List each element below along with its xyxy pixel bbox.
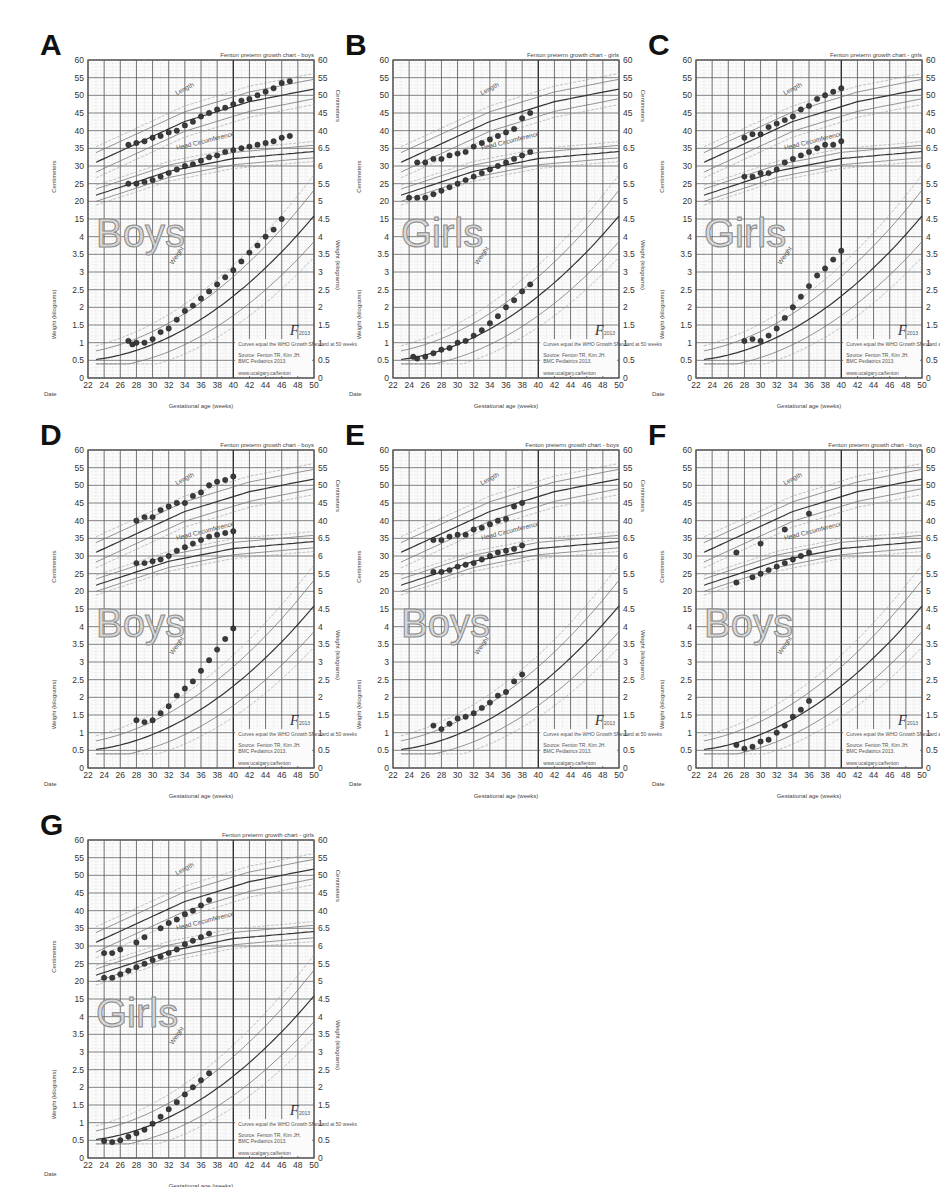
data-point bbox=[126, 968, 131, 973]
x-tick: 30 bbox=[453, 770, 463, 780]
data-point bbox=[182, 308, 187, 313]
x-tick: 32 bbox=[469, 380, 479, 390]
y-tick-kg: 0.5 bbox=[377, 355, 389, 365]
data-point bbox=[142, 961, 147, 966]
data-point bbox=[158, 133, 163, 138]
x-tick: 38 bbox=[212, 770, 222, 780]
y-right-tick-cm: 60 bbox=[318, 55, 328, 65]
x-tick: 24 bbox=[99, 770, 109, 780]
data-point bbox=[182, 912, 187, 917]
y-tick-kg: 2 bbox=[384, 692, 389, 702]
data-point bbox=[439, 347, 444, 352]
legend-box: Curves equal the WHO Growth Standard at … bbox=[235, 1119, 357, 1156]
data-point bbox=[255, 243, 260, 248]
data-point bbox=[447, 721, 452, 726]
data-point bbox=[190, 162, 195, 167]
x-tick: 50 bbox=[917, 380, 927, 390]
y-axis-label-cm: Centimeters bbox=[356, 160, 362, 192]
y-tick-kg: 2.5 bbox=[72, 675, 84, 685]
y-tick-cm: 25 bbox=[75, 959, 85, 969]
data-point bbox=[798, 153, 803, 158]
y-right-axis-label-cm: Centimeters bbox=[335, 90, 341, 122]
data-point bbox=[790, 557, 795, 562]
chart-title: Fenton preterm growth chart - boys bbox=[220, 52, 314, 58]
y-axis-label-cm: Centimeters bbox=[659, 550, 665, 582]
fenton-logo: F bbox=[289, 1103, 299, 1118]
data-point bbox=[782, 560, 787, 565]
chart-panel-c: CLengthHead CircumferenceWeightGirlsFent… bbox=[648, 20, 940, 410]
growth-chart-svg: LengthHead CircumferenceWeightBoysFenton… bbox=[345, 410, 645, 800]
data-point bbox=[271, 227, 276, 232]
x-tick: 30 bbox=[148, 380, 158, 390]
x-tick: 48 bbox=[293, 380, 303, 390]
data-point bbox=[134, 140, 139, 145]
x-tick: 42 bbox=[853, 770, 863, 780]
x-tick: 40 bbox=[534, 380, 544, 390]
y-right-tick-kg: 2.5 bbox=[318, 285, 330, 295]
sex-watermark-label: Boys bbox=[96, 601, 185, 645]
data-point bbox=[223, 149, 228, 154]
data-point bbox=[495, 550, 500, 555]
y-right-axis-label-cm: Centimeters bbox=[640, 480, 646, 512]
data-point bbox=[174, 317, 179, 322]
x-tick: 40 bbox=[534, 770, 544, 780]
y-tick-cm: 30 bbox=[75, 941, 85, 951]
y-tick-kg: 3 bbox=[79, 267, 84, 277]
y-right-tick-cm: 55 bbox=[926, 73, 936, 83]
y-axis-label-kg: Weight (kilograms) bbox=[51, 289, 57, 339]
y-tick-cm: 55 bbox=[75, 853, 85, 863]
y-right-tick-kg: 6 bbox=[623, 161, 628, 171]
data-point bbox=[279, 135, 284, 140]
y-tick-kg: 2.5 bbox=[680, 675, 692, 685]
data-point bbox=[431, 351, 436, 356]
y-tick-kg: 2 bbox=[687, 692, 692, 702]
x-tick: 26 bbox=[116, 770, 126, 780]
y-axis-label-cm: Centimeters bbox=[51, 160, 57, 192]
y-tick-cm: 25 bbox=[683, 179, 693, 189]
y-tick-kg: 1 bbox=[384, 338, 389, 348]
data-point bbox=[822, 93, 827, 98]
data-point bbox=[487, 167, 492, 172]
data-point bbox=[231, 147, 236, 152]
x-tick: 50 bbox=[614, 770, 624, 780]
x-tick: 46 bbox=[277, 380, 287, 390]
y-tick-kg: 3 bbox=[687, 657, 692, 667]
y-tick-cm: 40 bbox=[380, 516, 390, 526]
y-tick-kg: 4 bbox=[79, 1012, 84, 1022]
y-right-tick-kg: 0 bbox=[926, 763, 931, 773]
y-right-tick-kg: 0.5 bbox=[318, 355, 330, 365]
data-point bbox=[839, 248, 844, 253]
date-label: Date bbox=[44, 391, 57, 397]
data-point bbox=[782, 527, 787, 532]
y-tick-cm: 20 bbox=[75, 586, 85, 596]
data-point bbox=[142, 514, 147, 519]
y-right-tick-kg: 6 bbox=[623, 551, 628, 561]
data-point bbox=[519, 289, 524, 294]
y-tick-kg: 4 bbox=[79, 622, 84, 632]
x-tick: 48 bbox=[293, 770, 303, 780]
data-point bbox=[110, 975, 115, 980]
y-tick-kg: 3 bbox=[384, 267, 389, 277]
data-point bbox=[782, 117, 787, 122]
data-point bbox=[239, 259, 244, 264]
y-tick-cm: 45 bbox=[75, 888, 85, 898]
fenton-logo: F bbox=[289, 713, 299, 728]
data-point bbox=[198, 903, 203, 908]
y-right-tick-kg: 0.5 bbox=[318, 1135, 330, 1145]
x-tick: 30 bbox=[453, 380, 463, 390]
x-tick: 26 bbox=[116, 380, 126, 390]
y-tick-cm: 30 bbox=[380, 551, 390, 561]
y-tick-cm: 30 bbox=[683, 161, 693, 171]
y-tick-cm: 35 bbox=[75, 923, 85, 933]
y-right-tick-kg: 4.5 bbox=[318, 214, 330, 224]
legend-box: Curves equal the WHO Growth Standard at … bbox=[540, 339, 662, 376]
svg-text:BMC Pediatrics 2013.: BMC Pediatrics 2013. bbox=[238, 748, 286, 754]
data-point bbox=[134, 340, 139, 345]
date-label: Date bbox=[44, 1171, 57, 1177]
data-point bbox=[255, 142, 260, 147]
data-point bbox=[190, 303, 195, 308]
y-right-tick-kg: 5.5 bbox=[623, 569, 635, 579]
data-point bbox=[190, 493, 195, 498]
data-point bbox=[750, 336, 755, 341]
x-tick: 46 bbox=[277, 770, 287, 780]
